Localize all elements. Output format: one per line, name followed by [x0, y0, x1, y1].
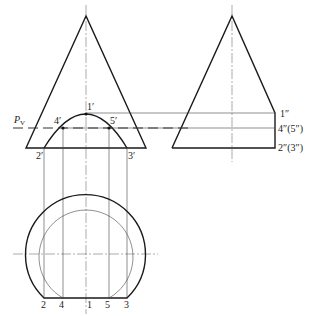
- label-5: 5: [105, 299, 110, 310]
- point-1-prime: [84, 112, 87, 115]
- label-1-double-prime: 1″: [280, 108, 289, 119]
- label-23-double-prime: 2″(3″): [278, 142, 303, 154]
- label-45-double-prime: 4″(5″): [278, 123, 303, 135]
- label-4-prime: 4′: [54, 115, 61, 126]
- point-4-prime: [61, 126, 64, 129]
- projection-diagram: PV 1′ 4′ 5′ 2′ 3′ 1″ 4″(5″) 2″(3″) 2 4 1…: [0, 0, 312, 316]
- label-2: 2: [41, 299, 46, 310]
- label-3-prime: 3′: [128, 150, 135, 161]
- point-5-prime: [107, 126, 110, 129]
- label-5-prime: 5′: [110, 115, 117, 126]
- label-1: 1: [87, 299, 92, 310]
- label-4: 4: [59, 299, 64, 310]
- label-1-prime: 1′: [87, 101, 94, 112]
- label-3: 3: [124, 299, 129, 310]
- plane-label: PV: [13, 114, 25, 127]
- label-2-prime: 2′: [36, 150, 43, 161]
